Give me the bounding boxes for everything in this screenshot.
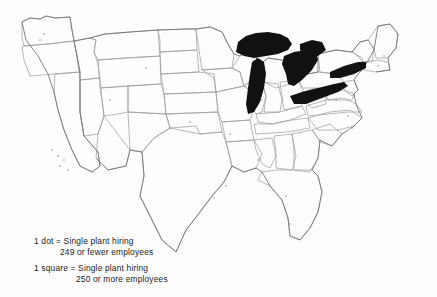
dot-marker — [213, 197, 215, 199]
dot-marker — [57, 155, 59, 157]
map-screenshot: 1 dot = Single plant hiring 249 or fewer… — [0, 0, 437, 297]
dot-marker — [335, 99, 337, 101]
lake-michigan-fill — [246, 58, 266, 114]
legend-square-line-2: 250 or more employees — [34, 274, 234, 285]
legend-item-square: 1 square = Single plant hiring 250 or mo… — [34, 263, 234, 284]
lake-superior-fill — [236, 32, 292, 58]
map-outer-coastline — [22, 16, 398, 252]
dot-marker — [377, 65, 379, 67]
lake-ontario-fill — [330, 62, 366, 78]
dot-marker — [225, 185, 227, 187]
dot-marker — [229, 133, 231, 135]
legend-dot-line-1: 1 dot = Single plant hiring — [34, 236, 234, 247]
dot-marker — [51, 149, 53, 151]
dot-marker — [351, 127, 353, 129]
dot-marker — [59, 165, 61, 167]
legend-dot-line-2: 249 or fewer employees — [34, 247, 234, 258]
lake-erie-fill — [290, 82, 348, 104]
dot-marker — [347, 115, 349, 117]
dot-marker — [145, 67, 147, 69]
dot-marker — [285, 195, 287, 197]
legend-square-line-1: 1 square = Single plant hiring — [34, 263, 234, 274]
legend-item-dot: 1 dot = Single plant hiring 249 or fewer… — [34, 236, 234, 257]
dot-marker — [109, 99, 111, 101]
dot-marker — [63, 159, 65, 161]
dot-marker — [43, 33, 45, 35]
dot-marker — [189, 121, 191, 123]
dot-marker — [39, 39, 41, 41]
great-lakes-fill — [236, 32, 366, 114]
dot-marker — [257, 159, 259, 161]
map-legend: 1 dot = Single plant hiring 249 or fewer… — [34, 236, 234, 290]
dot-marker — [261, 99, 263, 101]
dot-marker — [289, 223, 291, 225]
dot-marker — [383, 55, 385, 57]
georgian-bay-fill — [300, 40, 326, 56]
dot-marker — [67, 169, 69, 171]
